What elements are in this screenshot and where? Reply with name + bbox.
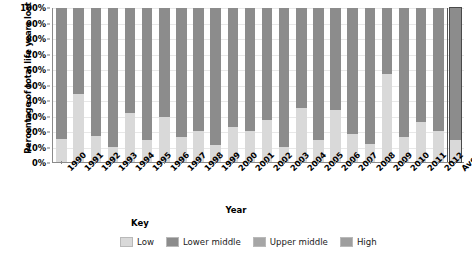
bar-group[interactable] — [241, 8, 258, 162]
bar-group[interactable] — [173, 8, 190, 162]
bar-segment[interactable] — [159, 8, 170, 117]
bar[interactable] — [210, 8, 221, 162]
bar-segment[interactable] — [193, 8, 204, 131]
legend-item[interactable]: Lower middle — [166, 237, 241, 247]
bar-segment[interactable] — [176, 8, 187, 137]
bar-average[interactable] — [450, 8, 461, 162]
bar-group[interactable] — [378, 8, 395, 162]
bar-group[interactable] — [327, 8, 344, 162]
x-axis-tick-mark — [78, 161, 79, 164]
bar-segment[interactable] — [210, 8, 221, 145]
bar[interactable] — [73, 8, 84, 162]
bar-segment[interactable] — [433, 8, 444, 131]
bar-segment[interactable] — [279, 8, 290, 147]
y-axis-tick-mark — [47, 54, 50, 55]
bar[interactable] — [330, 8, 341, 162]
bar-group[interactable] — [396, 8, 413, 162]
x-axis-tick-label: 1992 — [99, 166, 106, 173]
bar[interactable] — [91, 8, 102, 162]
bar-segment[interactable] — [228, 8, 239, 127]
bar[interactable] — [433, 8, 444, 162]
y-axis-tick-mark — [47, 23, 50, 24]
bar-segment[interactable] — [91, 8, 102, 136]
bar-group[interactable] — [104, 8, 121, 162]
bar-group[interactable] — [344, 8, 361, 162]
bar-group[interactable] — [224, 8, 241, 162]
x-axis-tick-label: 2004 — [305, 166, 312, 173]
bar-segment[interactable] — [142, 8, 153, 140]
y-axis-tick-label: 30% — [26, 112, 46, 122]
x-axis-tick-label: 1995 — [150, 166, 157, 173]
bar-segment[interactable] — [382, 74, 393, 162]
bar[interactable] — [159, 8, 170, 162]
bar-group[interactable] — [430, 8, 447, 162]
bar[interactable] — [176, 8, 187, 162]
bar-group[interactable] — [207, 8, 224, 162]
bar-group[interactable] — [413, 8, 430, 162]
bar[interactable] — [108, 8, 119, 162]
bar-segment[interactable] — [330, 8, 341, 110]
bar-segment[interactable] — [347, 8, 358, 134]
legend-label: High — [357, 237, 377, 247]
x-axis-tick-label: 2005 — [322, 166, 329, 173]
bar-segment[interactable] — [382, 8, 393, 74]
x-axis-tick-label: 2008 — [374, 166, 381, 173]
bar-segment[interactable] — [108, 8, 119, 147]
bar[interactable] — [228, 8, 239, 162]
bar-group[interactable] — [310, 8, 327, 162]
bar-group[interactable] — [190, 8, 207, 162]
bar-segment[interactable] — [296, 8, 307, 108]
bar[interactable] — [365, 8, 376, 162]
bar[interactable] — [262, 8, 273, 162]
legend-swatch — [166, 237, 179, 247]
bar[interactable] — [399, 8, 410, 162]
x-axis-tick-label: 1994 — [133, 166, 140, 173]
legend-item[interactable]: Upper middle — [253, 237, 328, 247]
bar-group[interactable] — [276, 8, 293, 162]
bar-group[interactable] — [447, 8, 464, 162]
bar[interactable] — [313, 8, 324, 162]
bar-group[interactable] — [156, 8, 173, 162]
x-axis-tick-label: 2011 — [425, 166, 432, 173]
x-axis-tick-mark — [352, 161, 353, 164]
bar-segment[interactable] — [416, 8, 427, 122]
bar[interactable] — [347, 8, 358, 162]
x-axis-tick-label: 1993 — [116, 166, 123, 173]
bar-segment[interactable] — [262, 8, 273, 120]
x-axis-tick-label: Average — [459, 166, 466, 173]
bar[interactable] — [416, 8, 427, 162]
bar-group[interactable] — [87, 8, 104, 162]
bar[interactable] — [245, 8, 256, 162]
bar-group[interactable] — [259, 8, 276, 162]
bar[interactable] — [296, 8, 307, 162]
bar-group[interactable] — [122, 8, 139, 162]
legend-item[interactable]: High — [340, 237, 377, 247]
bar[interactable] — [279, 8, 290, 162]
bar[interactable] — [193, 8, 204, 162]
bar-group[interactable] — [361, 8, 378, 162]
bar-group[interactable] — [53, 8, 70, 162]
bar[interactable] — [56, 8, 67, 162]
x-axis-tick-mark — [438, 161, 439, 164]
bar[interactable] — [382, 8, 393, 162]
bar-segment[interactable] — [73, 8, 84, 94]
bar-group[interactable] — [139, 8, 156, 162]
bar-segment[interactable] — [399, 8, 410, 137]
bar-group[interactable] — [293, 8, 310, 162]
y-axis-tick-label: 80% — [26, 34, 46, 44]
y-axis-tick-label: 50% — [26, 81, 46, 91]
bar[interactable] — [142, 8, 153, 162]
bar[interactable] — [125, 8, 136, 162]
y-axis-tick-label: 90% — [26, 19, 46, 29]
legend-item[interactable]: Low — [120, 237, 154, 247]
bar-segment[interactable] — [313, 8, 324, 140]
bar-segment[interactable] — [56, 139, 67, 162]
bar-segment[interactable] — [365, 8, 376, 144]
x-axis-tick-label: 1996 — [168, 166, 175, 173]
bar-segment[interactable] — [450, 8, 461, 140]
bar-group[interactable] — [70, 8, 87, 162]
y-axis-tick-label: 20% — [26, 127, 46, 137]
bar-segment[interactable] — [245, 8, 256, 131]
bar-segment[interactable] — [125, 8, 136, 113]
bar-segment[interactable] — [56, 8, 67, 139]
